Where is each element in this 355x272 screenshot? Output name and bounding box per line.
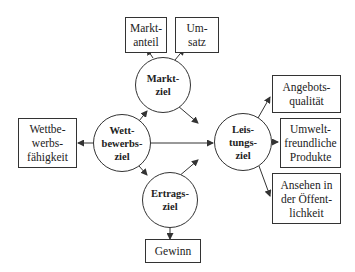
- wettbewerbsfaehigkeit-box: Wettbe- werbs- fähigkeit: [18, 118, 77, 168]
- umsatz-box: Um- satz: [175, 17, 219, 53]
- angebotsqualitaet-box: Angebots- qualität: [272, 75, 341, 113]
- ansehen-oeffentlichkeit-box: Ansehen in der Öffent- lichkeit: [272, 173, 341, 224]
- leistungsziel-node: Leis- tungs- ziel: [214, 113, 272, 171]
- marktziel-node: Markt- ziel: [135, 57, 191, 113]
- gewinn-box: Gewinn: [145, 239, 201, 263]
- marktanteil-box: Markt- anteil: [125, 17, 167, 53]
- ertragsziel-node: Ertrags- ziel: [142, 172, 198, 228]
- umweltfreundliche-produkte-box: Umwelt- freundliche Produkte: [280, 118, 341, 168]
- wettbewerbsziel-node: Wett- bewerbs- ziel: [93, 114, 151, 172]
